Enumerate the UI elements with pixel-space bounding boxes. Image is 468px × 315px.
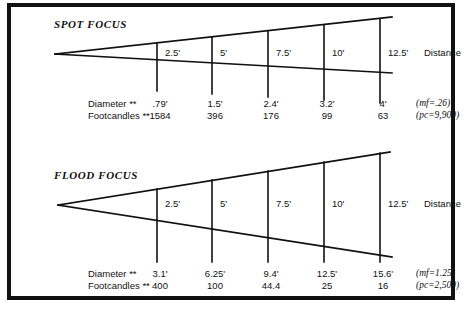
flood-distance-axis-word: Distance	[424, 198, 461, 209]
spot-footcandles-row-label: Footcandles **	[88, 110, 150, 121]
flood-pc-note: (pc=2,500)	[416, 280, 459, 290]
flood-footcandles-value-2: 100	[207, 280, 223, 291]
flood-distance-label-5: 12.5'	[388, 198, 408, 209]
flood-diameter-value-2: 6.25'	[205, 268, 225, 279]
spot-distance-label-2: 5'	[220, 47, 227, 58]
spot-distance-label-4: 10'	[332, 47, 344, 58]
flood-distance-label-2: 5'	[220, 198, 227, 209]
spot-diameter-value-4: 3.2'	[319, 98, 334, 109]
spot-diameter-row-label: Diameter **	[88, 98, 137, 109]
spot-diameter-value-1: .79'	[152, 98, 167, 109]
flood-distance-label-4: 10'	[332, 198, 344, 209]
spot-distance-label-1: 2.5'	[165, 47, 180, 58]
flood-distance-label-3: 7.5'	[276, 198, 291, 209]
spot-pc-note: (pc=9,900)	[416, 110, 459, 120]
spot-distance-axis-word: Distance	[424, 47, 461, 58]
flood-diameter-value-5: 15.6'	[373, 268, 393, 279]
spot-diameter-value-3: 2.4'	[263, 98, 278, 109]
flood-footcandles-value-1: 400	[152, 280, 168, 291]
figure-page: SPOT FOCUS 2.5' 5' 7.5' 10' 12.5' Distan…	[0, 0, 468, 315]
flood-focus-title: FLOOD FOCUS	[54, 169, 138, 181]
spot-footcandles-value-2: 396	[207, 110, 223, 121]
spot-distance-label-3: 7.5'	[276, 47, 291, 58]
spot-mf-note: (mf=.26)	[416, 98, 450, 108]
spot-focus-title: SPOT FOCUS	[54, 18, 127, 30]
flood-footcandles-value-3: 44.4	[262, 280, 281, 291]
spot-footcandles-value-3: 176	[263, 110, 279, 121]
flood-footcandles-row-label: Footcandles **	[88, 280, 150, 291]
spot-distance-label-5: 12.5'	[388, 47, 408, 58]
flood-diameter-value-3: 9.4'	[263, 268, 278, 279]
flood-footcandles-value-4: 25	[322, 280, 333, 291]
spot-footcandles-value-5: 63	[378, 110, 389, 121]
flood-mf-note: (mf=1.25)	[416, 268, 455, 278]
spot-footcandles-value-1: 1584	[149, 110, 170, 121]
flood-diameter-value-1: 3.1'	[152, 268, 167, 279]
flood-diameter-row-label: Diameter **	[88, 268, 137, 279]
spot-footcandles-value-4: 99	[322, 110, 333, 121]
spot-diameter-value-5: 4'	[379, 98, 386, 109]
flood-diameter-value-4: 12.5'	[317, 268, 337, 279]
inner-frame	[10, 6, 452, 297]
flood-footcandles-value-5: 16	[378, 280, 389, 291]
spot-diameter-value-2: 1.5'	[207, 98, 222, 109]
flood-distance-label-1: 2.5'	[165, 198, 180, 209]
